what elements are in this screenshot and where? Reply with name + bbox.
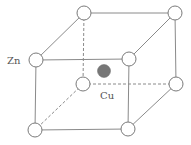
atom-front-bottom-left — [28, 123, 42, 137]
label-zn: Zn — [7, 55, 21, 66]
unit-cell-diagram: Zn Cu — [0, 0, 191, 145]
atom-back-bottom-left — [76, 77, 90, 91]
edge-bottom-right-depth — [128, 84, 176, 129]
atom-back-top-left — [77, 6, 91, 20]
edge-front-bottom — [35, 129, 128, 130]
edge-front-top — [36, 59, 129, 60]
atom-front-top-right — [122, 52, 136, 66]
atom-front-bottom-right — [121, 122, 135, 136]
label-cu: Cu — [100, 90, 115, 101]
edge-top-left-depth — [36, 13, 84, 60]
hidden-edge-bottom-left-depth — [35, 84, 83, 130]
atom-front-top-left — [29, 53, 43, 67]
atom-back-bottom-right — [169, 77, 183, 91]
atom-body-center — [98, 65, 111, 78]
edge-back-right — [175, 13, 176, 84]
edge-front-right — [128, 59, 129, 129]
edge-top-right-depth — [129, 13, 175, 59]
hidden-edge-back-left-vertical — [83, 13, 84, 84]
edge-front-left — [35, 60, 36, 130]
atom-back-top-right — [168, 6, 182, 20]
